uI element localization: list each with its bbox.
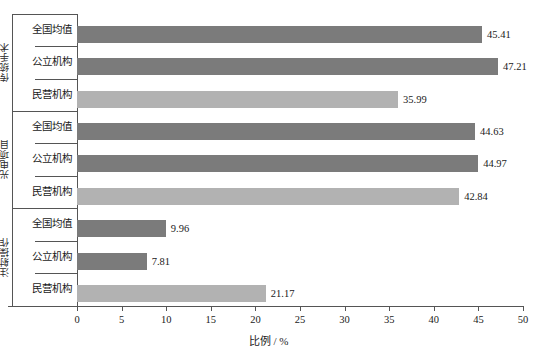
x-tick — [478, 306, 479, 311]
category-tick — [35, 241, 77, 242]
bar-value-label: 44.97 — [478, 155, 507, 172]
bar-value-label: 45.41 — [482, 26, 511, 43]
bar-chart: 传统手术 光电项目 注射操作 全国均值 公立机构 民营机构 全国均值 公立机构 … — [0, 0, 537, 358]
category-label-private-institution: 民营机构 — [12, 186, 75, 198]
bar-value-label: 47.21 — [498, 58, 527, 75]
bar — [77, 285, 266, 302]
bar-value-label: 7.81 — [147, 253, 170, 270]
bar — [77, 253, 147, 270]
x-tick — [523, 306, 524, 311]
x-tick — [211, 306, 212, 311]
x-tick — [255, 306, 256, 311]
bar — [77, 155, 478, 172]
x-tick-label: 40 — [429, 313, 440, 326]
category-label-private-institution: 民营机构 — [12, 89, 75, 101]
x-tick-label: 35 — [384, 313, 395, 326]
category-tick — [35, 143, 77, 144]
category-tick — [35, 79, 77, 80]
category-tick — [35, 46, 77, 47]
x-tick-label: 45 — [473, 313, 484, 326]
x-tick-label: 20 — [250, 313, 261, 326]
bar-value-label: 9.96 — [166, 220, 189, 237]
category-label-national-average: 全国均值 — [12, 24, 75, 36]
category-tick — [35, 208, 77, 209]
category-tick — [35, 14, 77, 15]
bar — [77, 220, 166, 237]
x-tick-label: 50 — [518, 313, 529, 326]
category-tick — [35, 176, 77, 177]
bar-value-label: 35.99 — [398, 91, 427, 108]
bar — [77, 188, 459, 205]
bar-value-label: 21.17 — [266, 285, 295, 302]
x-tick-label: 10 — [161, 313, 172, 326]
x-tick — [166, 306, 167, 311]
category-label-public-institution: 公立机构 — [12, 153, 75, 165]
category-label-national-average: 全国均值 — [12, 218, 75, 230]
x-tick — [122, 306, 123, 311]
bar — [77, 58, 498, 75]
x-tick-label: 30 — [339, 313, 350, 326]
x-tick — [345, 306, 346, 311]
plot-area: 45.4147.2135.9944.6344.9742.849.967.8121… — [77, 14, 523, 306]
bar — [77, 123, 475, 140]
x-tick — [77, 306, 78, 311]
x-tick-label: 0 — [74, 313, 79, 326]
x-axis-title: 比例 / % — [0, 332, 537, 348]
category-label-private-institution: 民营机构 — [12, 283, 75, 295]
bar — [77, 91, 398, 108]
category-label-public-institution: 公立机构 — [12, 56, 75, 68]
x-tick-label: 15 — [206, 313, 217, 326]
category-label-national-average: 全国均值 — [12, 121, 75, 133]
bar — [77, 26, 482, 43]
x-tick-label: 5 — [119, 313, 124, 326]
x-tick — [300, 306, 301, 311]
category-label-public-institution: 公立机构 — [12, 251, 75, 263]
category-tick — [35, 111, 77, 112]
bar-value-label: 44.63 — [475, 123, 504, 140]
x-axis-line — [8, 306, 524, 307]
category-tick — [35, 273, 77, 274]
x-tick — [434, 306, 435, 311]
x-tick-label: 25 — [295, 313, 306, 326]
x-tick — [389, 306, 390, 311]
bar-value-label: 42.84 — [459, 188, 488, 205]
